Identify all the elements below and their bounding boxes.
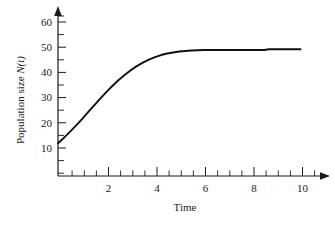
y-tick-label-50: 50	[41, 41, 53, 53]
chart-figure: 10 20 30 40 50 60 2 4 6 8 10 Time Popula…	[0, 0, 335, 226]
y-tick-label-10: 10	[41, 142, 53, 154]
y-tick-label-30: 30	[41, 91, 53, 103]
x-tick-label-2: 2	[106, 182, 112, 194]
x-tick-label-4: 4	[154, 182, 160, 194]
x-axis-major-ticks	[109, 167, 303, 176]
y-tick-label-40: 40	[41, 66, 53, 78]
x-tick-label-10: 10	[297, 182, 309, 194]
x-tick-label-8: 8	[251, 182, 257, 194]
y-axis-title-symbol: N(t)	[14, 56, 27, 75]
logistic-growth-chart: 10 20 30 40 50 60 2 4 6 8 10 Time Popula…	[0, 0, 335, 226]
x-axis-title: Time	[174, 201, 197, 213]
y-tick-label-20: 20	[41, 117, 53, 129]
y-axis-arrow-icon	[54, 6, 62, 16]
x-axis-arrow-icon	[320, 172, 330, 180]
y-axis-title: Population size N(t)	[14, 56, 27, 144]
y-axis-minor-ticks	[58, 16, 64, 173]
y-tick-label-60: 60	[41, 16, 53, 28]
x-tick-label-6: 6	[203, 182, 209, 194]
svg-text:Population size N(t): Population size N(t)	[14, 56, 27, 144]
population-curve	[58, 49, 301, 143]
y-axis-title-main: Population size	[14, 74, 26, 144]
